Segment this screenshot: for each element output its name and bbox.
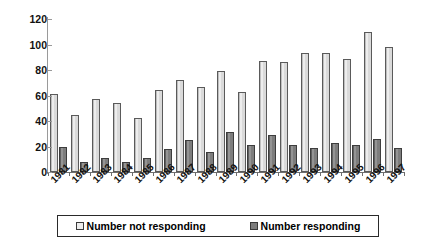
bar-not-responding	[385, 47, 393, 172]
bar-not-responding	[50, 94, 58, 172]
y-axis-tick-label: 60	[7, 90, 47, 101]
bar-not-responding	[280, 62, 288, 172]
bar-group	[341, 19, 362, 172]
bar-not-responding	[134, 118, 142, 172]
bar-not-responding	[92, 99, 100, 172]
bar-chart: 020406080100120 198119821983198419851986…	[0, 0, 434, 249]
bar-not-responding	[197, 87, 205, 172]
y-axis-tick-mark	[48, 19, 52, 20]
y-axis-tick-label: 0	[7, 167, 47, 178]
y-axis-tick-mark	[48, 96, 52, 97]
bar-group	[90, 19, 111, 172]
bar-group	[278, 19, 299, 172]
bar-not-responding	[238, 92, 246, 172]
y-axis-tick-mark	[48, 172, 52, 173]
y-axis-tick-mark	[48, 121, 52, 122]
legend-swatch-icon	[250, 222, 258, 230]
bar-not-responding	[71, 115, 79, 172]
bar-not-responding	[176, 80, 184, 172]
bar-group	[174, 19, 195, 172]
bar-group	[195, 19, 216, 172]
legend-swatch-icon	[76, 222, 84, 230]
chart-legend: Number not respondingNumber responding	[57, 215, 379, 237]
bar-group	[236, 19, 257, 172]
bar-not-responding	[322, 53, 330, 172]
bar-group	[216, 19, 237, 172]
bar-not-responding	[217, 71, 225, 172]
plot-area	[48, 19, 404, 172]
legend-item: Number responding	[250, 221, 361, 232]
y-axis-tick-mark	[48, 147, 52, 148]
bar-not-responding	[343, 59, 351, 172]
legend-label: Number not responding	[87, 221, 206, 232]
bar-group	[153, 19, 174, 172]
y-axis-tick-label: 120	[7, 14, 47, 25]
bar-group	[257, 19, 278, 172]
bar-group	[362, 19, 383, 172]
legend-item: Number not responding	[76, 221, 206, 232]
bar-group	[299, 19, 320, 172]
bar-not-responding	[113, 103, 121, 172]
bar-not-responding	[301, 53, 309, 172]
legend-label: Number responding	[261, 221, 361, 232]
y-axis-tick-label: 80	[7, 65, 47, 76]
bar-group	[320, 19, 341, 172]
bar-group	[383, 19, 404, 172]
y-axis-tick-mark	[48, 70, 52, 71]
bar-group	[111, 19, 132, 172]
y-axis-tick-label: 20	[7, 141, 47, 152]
y-axis-tick-mark	[48, 45, 52, 46]
bar-group	[69, 19, 90, 172]
bar-not-responding	[155, 90, 163, 172]
bar-group	[132, 19, 153, 172]
y-axis-labels: 020406080100120	[0, 0, 47, 249]
bar-not-responding	[259, 61, 267, 172]
y-axis-tick-label: 40	[7, 116, 47, 127]
bar-not-responding	[364, 32, 372, 172]
y-axis-tick-label: 100	[7, 39, 47, 50]
